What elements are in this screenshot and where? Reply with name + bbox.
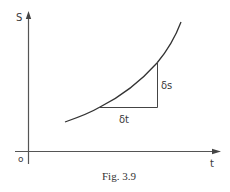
x-axis-arrowhead-icon	[212, 149, 221, 154]
s-t-graph: S t o δs δt Fig. 3.9	[0, 0, 230, 192]
delta-s-label: δs	[161, 80, 172, 91]
x-axis-label: t	[210, 158, 214, 169]
delta-t-label: δt	[119, 114, 129, 125]
origin-label: o	[18, 154, 24, 164]
y-axis-arrowhead-icon	[26, 11, 31, 19]
figure-caption: Fig. 3.9	[102, 170, 136, 182]
y-axis-label: S	[16, 12, 22, 23]
